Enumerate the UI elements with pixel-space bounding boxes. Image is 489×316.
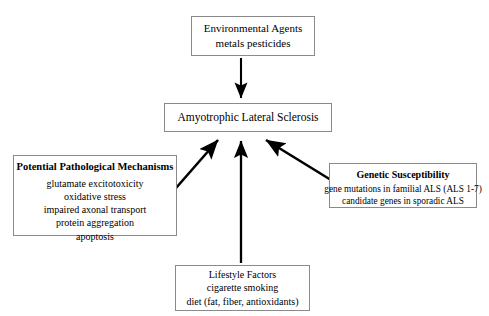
mechanisms-item-5: apoptosis	[76, 230, 114, 243]
node-lifestyle-factors: Lifestyle Factors cigarette smoking diet…	[175, 265, 310, 311]
lifestyle-line-2: cigarette smoking	[207, 281, 278, 294]
diagram-canvas: Environmental Agents metals pesticides A…	[0, 0, 489, 316]
arrow-genetic-to-als	[266, 140, 331, 180]
environmental-line-1: Environmental Agents	[204, 21, 303, 36]
mechanisms-item-1: glutamate excitotoxicity	[47, 177, 144, 190]
node-genetic-susceptibility: Genetic Susceptibility gene mutations in…	[329, 163, 477, 208]
mechanisms-header: Potential Pathological Mechanisms	[17, 160, 174, 174]
environmental-line-2: metals pesticides	[216, 36, 291, 51]
als-line-1: Amyotrophic Lateral Sclerosis	[177, 110, 318, 125]
genetic-item-2: candidate genes in sporadic ALS	[342, 195, 464, 207]
node-potential-pathological-mechanisms: Potential Pathological Mechanisms glutam…	[13, 155, 177, 236]
arrow-mechanisms-to-als	[176, 140, 218, 188]
lifestyle-line-3: diet (fat, fiber, antioxidants)	[186, 295, 298, 308]
genetic-header: Genetic Susceptibility	[356, 168, 449, 181]
genetic-item-1: gene mutations in familial ALS (ALS 1-7)	[324, 183, 482, 195]
node-environmental-agents: Environmental Agents metals pesticides	[191, 16, 315, 56]
mechanisms-item-4: protein aggregation	[56, 216, 134, 229]
lifestyle-line-1: Lifestyle Factors	[209, 268, 276, 281]
mechanisms-item-2: oxidative stress	[64, 190, 126, 203]
mechanisms-item-3: impaired axonal transport	[44, 203, 147, 216]
node-amyotrophic-lateral-sclerosis: Amyotrophic Lateral Sclerosis	[164, 103, 332, 132]
